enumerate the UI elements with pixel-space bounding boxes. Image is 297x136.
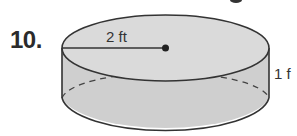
cylinder-figure	[0, 0, 297, 136]
radius-label: 2 ft	[106, 28, 127, 45]
cropped-text-fragment	[230, 0, 242, 3]
height-label: 1 f	[274, 65, 291, 82]
center-point	[162, 45, 169, 52]
